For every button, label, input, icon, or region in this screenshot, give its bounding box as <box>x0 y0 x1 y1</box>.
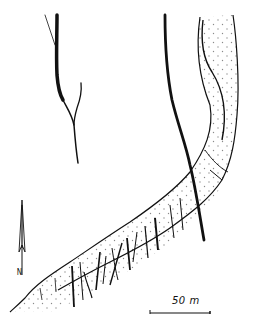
geological-map <box>0 0 254 327</box>
north-label: N <box>17 267 22 277</box>
north-arrow-icon <box>19 200 25 275</box>
left-fault <box>45 15 81 163</box>
scale-bar <box>150 310 210 314</box>
stippled-band <box>10 15 238 312</box>
scale-label: 50 m <box>172 295 200 306</box>
